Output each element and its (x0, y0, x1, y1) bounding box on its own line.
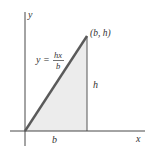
base-label: b (52, 134, 57, 145)
point-label: (b, h) (90, 28, 111, 39)
equation-lhs: y = (35, 54, 50, 65)
x-axis-label: x (135, 133, 141, 144)
equation-denominator: b (56, 61, 60, 71)
y-axis-label: y (27, 9, 33, 20)
triangle-area-diagram: y x (b, h) h b y = hx b (0, 0, 150, 150)
height-label: h (93, 79, 98, 90)
equation-numerator: hx (54, 50, 62, 60)
